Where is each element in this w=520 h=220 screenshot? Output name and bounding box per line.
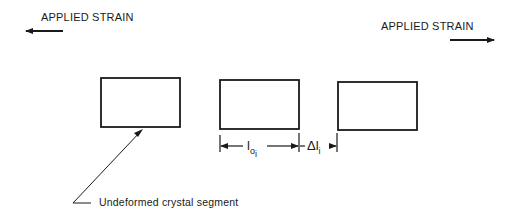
delta-length-symbol: Δli: [307, 138, 321, 156]
callout-leader: [73, 131, 141, 203]
crystal-segment-1: [101, 78, 180, 127]
callout-arrowhead: [134, 129, 143, 137]
original-length-symbol: loi: [247, 138, 257, 158]
applied-strain-right-label: APPLIED STRAIN: [381, 20, 474, 32]
crystal-segment-2: [220, 80, 299, 129]
crystal-segment-3: [338, 82, 417, 130]
applied-strain-left-label: APPLIED STRAIN: [41, 11, 134, 23]
callout-label: Undeformed crystal segment: [99, 196, 238, 208]
strain-diagram: [0, 0, 520, 220]
